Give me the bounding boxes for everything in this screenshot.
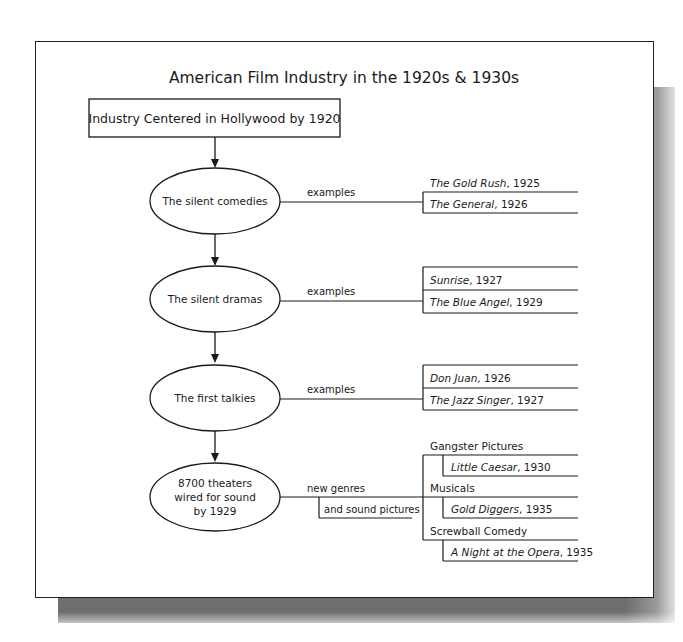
root-node-label: Industry Centered in Hollywood by 1920 bbox=[88, 111, 340, 126]
edge-label: examples bbox=[307, 286, 355, 297]
film-item: Little Caesar, 1930 bbox=[451, 461, 551, 473]
arrow-down-icon bbox=[211, 354, 219, 363]
root-node: Industry Centered in Hollywood by 1920 bbox=[88, 99, 340, 137]
arrow-down-icon bbox=[211, 453, 219, 462]
film-item: A Night at the Opera, 1935 bbox=[450, 546, 593, 558]
arrow-down-icon bbox=[211, 257, 219, 266]
node-silent-comedies: The silent comedies examples The Gold Ru… bbox=[150, 168, 578, 234]
genre-name: Gangster Pictures bbox=[430, 440, 523, 452]
film-item: The General, 1926 bbox=[430, 198, 528, 210]
film-item: The Jazz Singer, 1927 bbox=[430, 394, 544, 406]
node-label: The silent dramas bbox=[167, 293, 262, 305]
genre-name: Musicals bbox=[430, 482, 475, 494]
concept-map: American Film Industry in the 1920s & 19… bbox=[0, 0, 683, 642]
edge-label: examples bbox=[307, 187, 355, 198]
node-label: The first talkies bbox=[173, 392, 255, 404]
node-label: The silent comedies bbox=[161, 195, 267, 207]
genre-name: Screwball Comedy bbox=[430, 525, 527, 537]
film-item: Sunrise, 1927 bbox=[430, 274, 503, 286]
edge-label: examples bbox=[307, 384, 355, 395]
film-item: Don Juan, 1926 bbox=[430, 372, 511, 384]
edge-label: new genres bbox=[307, 483, 365, 494]
film-item: Gold Diggers, 1935 bbox=[451, 503, 552, 515]
diagram-title: American Film Industry in the 1920s & 19… bbox=[169, 69, 519, 87]
node-first-talkies: The first talkies examples Don Juan, 192… bbox=[150, 365, 578, 431]
node-label-line: by 1929 bbox=[194, 505, 237, 517]
arrow-down-icon bbox=[211, 159, 219, 168]
edge-sublabel: and sound pictures bbox=[324, 504, 420, 515]
film-item: The Blue Angel, 1929 bbox=[430, 296, 543, 308]
node-label-line: wired for sound bbox=[174, 491, 256, 503]
film-item: The Gold Rush, 1925 bbox=[430, 177, 540, 189]
node-label-line: 8700 theaters bbox=[178, 477, 252, 489]
node-silent-dramas: The silent dramas examples Sunrise, 1927… bbox=[150, 266, 578, 332]
